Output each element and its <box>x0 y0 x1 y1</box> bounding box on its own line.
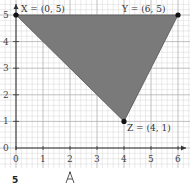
y-tick-label: 0 <box>3 143 9 153</box>
point-x <box>13 12 18 17</box>
y-tick-label: 3 <box>3 63 9 73</box>
x-tick-label: 2 <box>67 154 73 164</box>
x-tick-label: 6 <box>175 154 181 164</box>
y-tick-label: 5 <box>3 10 9 20</box>
point-y <box>175 12 180 17</box>
point-label-y: Y = (6, 5) <box>121 4 165 14</box>
point-label-z: Z = (4, 1) <box>127 123 171 133</box>
point-label-x: X = (0, 5) <box>21 4 65 14</box>
x-tick-label: 4 <box>121 154 127 164</box>
point-z <box>121 119 126 124</box>
x-tick-label: 5 <box>148 154 154 164</box>
y-tick-label: 2 <box>3 90 9 100</box>
x-tick-label: 3 <box>94 154 100 164</box>
coordinate-grid: 0123456012345 X = (0, 5)Y = (6, 5)Z = (4… <box>0 0 190 186</box>
page-number: 5 <box>12 175 18 185</box>
x-tick-label: 1 <box>40 154 46 164</box>
y-tick-label: 4 <box>3 37 9 47</box>
x-tick-label: 0 <box>13 154 19 164</box>
y-tick-label: 1 <box>3 116 9 126</box>
compass-icon <box>66 172 74 184</box>
y-axis-arrow-icon <box>14 4 19 9</box>
